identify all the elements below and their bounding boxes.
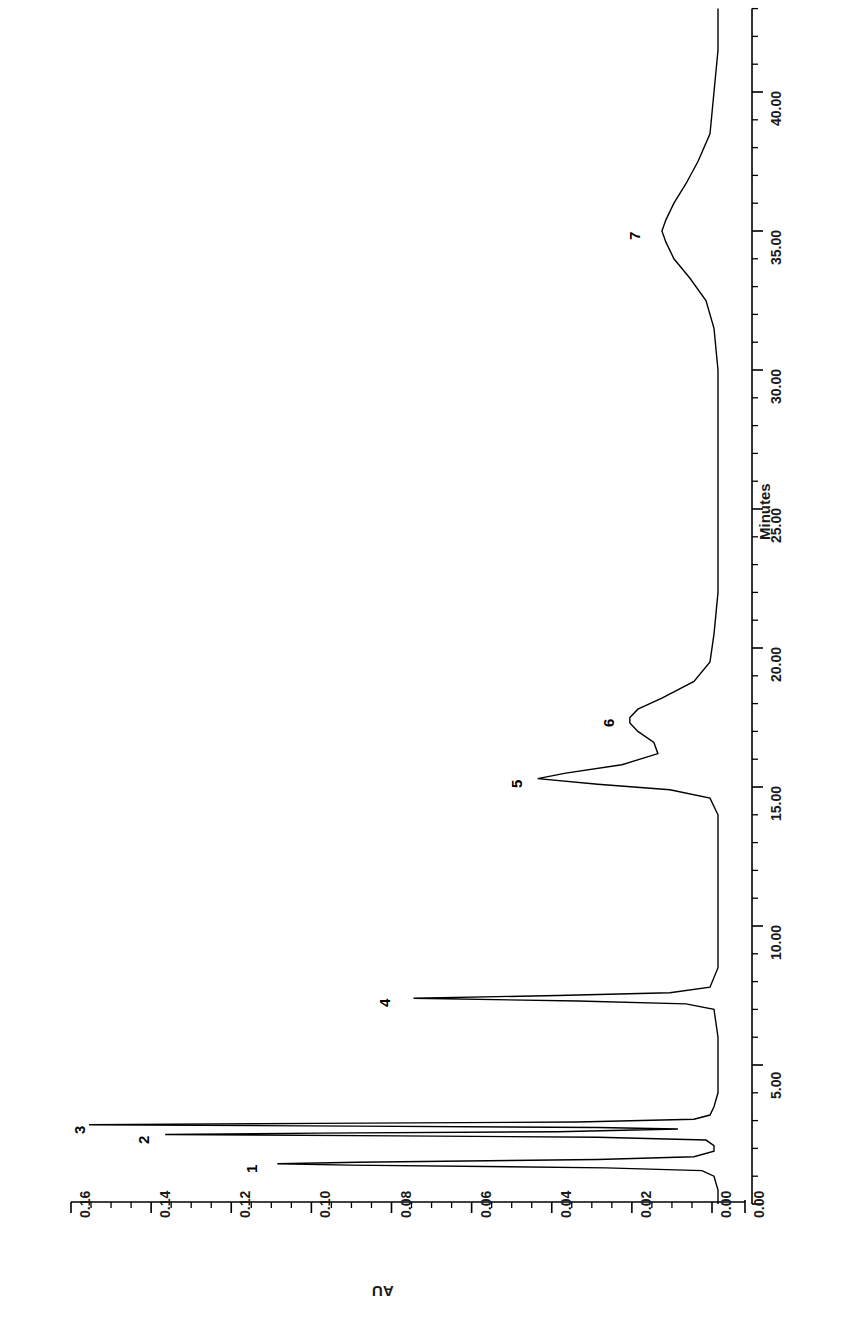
time-tick-label: 15.00 <box>768 786 784 821</box>
time-tick-label: 5.00 <box>768 1072 784 1099</box>
time-tick-label: 20.00 <box>768 647 784 682</box>
peak-label-3: 3 <box>71 1125 88 1133</box>
absorbance-trace-line <box>89 9 718 1204</box>
chromatogram-figure: AU Minutes 0.160.140.120.100.080.060.040… <box>0 0 848 1339</box>
peak-label-6: 6 <box>600 718 617 726</box>
time-tick-label: 30.00 <box>768 369 784 404</box>
peak-label-1: 1 <box>243 1164 260 1172</box>
signal-tick-label: 0.16 <box>77 1191 93 1218</box>
signal-tick-label: 0.02 <box>638 1191 654 1218</box>
time-tick-label: 10.00 <box>768 925 784 960</box>
peak-label-7: 7 <box>626 232 643 240</box>
time-zero-tick-label: 0.00 <box>751 1191 767 1218</box>
signal-tick-label: 0.06 <box>478 1191 494 1218</box>
time-tick-label: 35.00 <box>768 230 784 265</box>
time-tick-label: 25.00 <box>768 508 784 543</box>
signal-tick-label: 0.14 <box>157 1191 173 1218</box>
peak-label-5: 5 <box>508 779 525 787</box>
signal-tick-label: 0.04 <box>558 1191 574 1218</box>
time-tick-label: 40.00 <box>768 91 784 126</box>
peak-label-2: 2 <box>135 1135 152 1143</box>
signal-axis-title: AU <box>372 1283 394 1300</box>
time-axis <box>752 9 763 1204</box>
signal-tick-label: 0.00 <box>718 1191 734 1218</box>
signal-tick-label: 0.12 <box>237 1191 253 1218</box>
signal-tick-label: 0.08 <box>398 1191 414 1218</box>
signal-tick-label: 0.10 <box>317 1191 333 1218</box>
chromatogram-trace <box>89 9 718 1204</box>
peak-label-4: 4 <box>376 999 393 1007</box>
chromatogram-plot <box>0 0 848 1339</box>
